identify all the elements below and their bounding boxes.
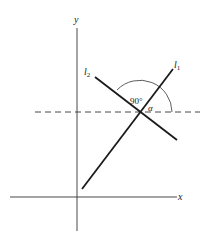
line-l2-label: l2	[84, 66, 91, 79]
x-axis-label: x	[177, 191, 183, 202]
line-l1	[82, 69, 173, 189]
line-l2	[95, 77, 177, 140]
diagram-canvas: x y l1 l2 90° α	[0, 0, 207, 236]
alpha-label: α	[148, 103, 153, 113]
y-axis-label: y	[73, 14, 79, 25]
line-l1-label: l1	[174, 59, 181, 72]
right-angle-label: 90°	[130, 96, 143, 106]
